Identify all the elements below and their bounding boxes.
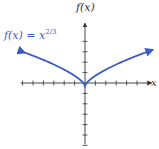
curve-x-two-thirds [25, 50, 153, 86]
function-label: f(x) = x2/3 [4, 28, 57, 42]
function-plot [0, 0, 159, 149]
y-axis-label: f(x) [76, 1, 95, 14]
function-label-base: f(x) = x [4, 29, 45, 42]
x-axis-label: x [151, 77, 157, 88]
function-label-exponent: 2/3 [45, 28, 56, 36]
